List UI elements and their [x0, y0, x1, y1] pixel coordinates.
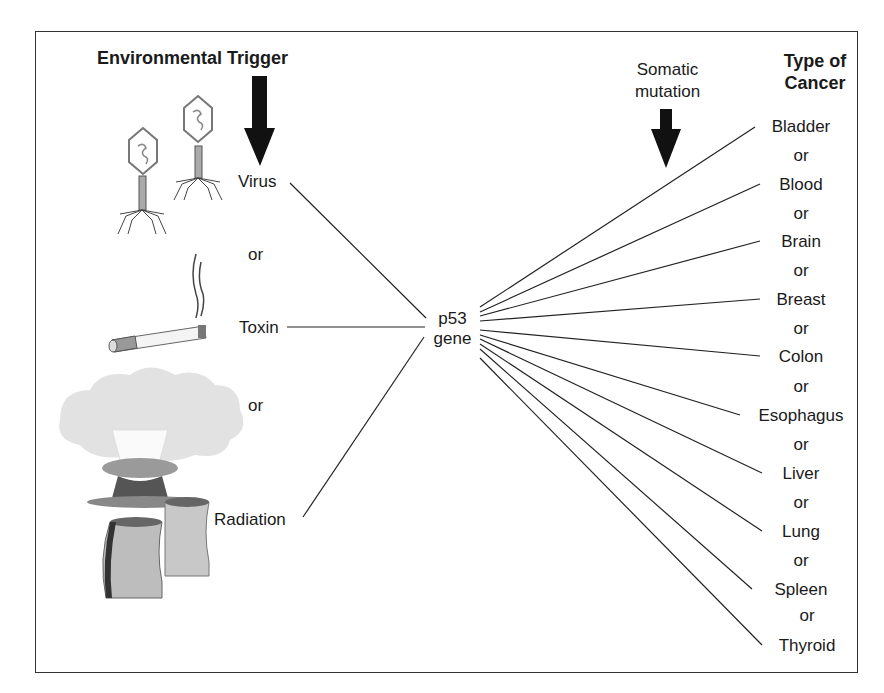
somatic-mutation-label: Somatic mutation [600, 59, 735, 103]
cancer-separator: or [746, 436, 856, 453]
environmental-trigger-heading: Environmental Trigger [97, 49, 288, 69]
cancer-separator: or [746, 552, 856, 569]
somatic-arrow-icon [651, 109, 681, 168]
cancer-separator: or [746, 262, 856, 279]
cancer-separator: or [746, 494, 856, 511]
trigger-virus: Virus [238, 173, 276, 190]
type-of-cancer-heading: Type of Cancer [760, 50, 870, 94]
cancer-connectors [480, 127, 762, 645]
cancer-esophagus: Esophagus [746, 407, 856, 424]
p53-label: p53 [425, 309, 480, 329]
somatic-line-2: mutation [600, 81, 735, 103]
cigarette-icon [109, 254, 206, 352]
gene-label: gene [425, 329, 480, 349]
cancer-bladder: Bladder [746, 118, 856, 135]
trigger-separator: or [248, 397, 263, 414]
cancer-separator: or [746, 147, 856, 164]
cancer-liver: Liver [746, 465, 856, 482]
cancer-separator: or [746, 378, 856, 395]
nuclear-plant-icon [59, 368, 243, 599]
trigger-separator: or [248, 246, 263, 263]
cancer-breast: Breast [746, 291, 856, 308]
cancer-separator: or [746, 205, 856, 222]
trigger-toxin: Toxin [239, 319, 279, 336]
bacteriophage-icon [118, 96, 222, 234]
cancer-thyroid: Thyroid [752, 637, 862, 654]
cancer-spleen: Spleen [746, 581, 856, 598]
trigger-radiation: Radiation [214, 511, 286, 528]
cancer-separator: or [746, 320, 856, 337]
cancer-heading-line-1: Type of [760, 50, 870, 72]
environmental-arrow-icon [244, 76, 275, 166]
cancer-brain: Brain [746, 233, 856, 250]
p53-gene-node: p53 gene [425, 309, 480, 349]
cancer-separator: or [752, 607, 862, 624]
somatic-line-1: Somatic [600, 59, 735, 81]
cancer-lung: Lung [746, 523, 856, 540]
cancer-heading-line-2: Cancer [760, 72, 870, 94]
cancer-blood: Blood [746, 176, 856, 193]
trigger-connectors [287, 183, 426, 517]
cancer-colon: Colon [746, 348, 856, 365]
